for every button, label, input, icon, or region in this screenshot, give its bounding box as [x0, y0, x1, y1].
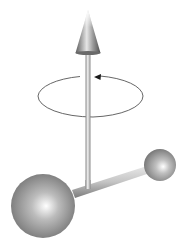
- diagram-svg: [0, 0, 183, 248]
- rotation-axis-arrowhead-icon: [76, 10, 101, 55]
- large-atom: [11, 174, 75, 238]
- diatomic-rotation-diagram: [0, 0, 183, 248]
- bond: [72, 166, 150, 198]
- rotation-axis-rod-base: [86, 180, 91, 189]
- rotation-direction-arrow-icon: [94, 74, 101, 80]
- small-atom: [144, 149, 176, 181]
- rotation-axis-rod: [86, 50, 91, 190]
- rotation-circle-back: [38, 76, 143, 117]
